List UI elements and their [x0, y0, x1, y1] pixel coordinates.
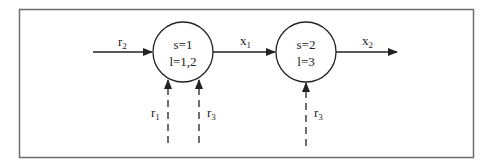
node-1-line2: l=1,2 — [169, 54, 196, 69]
node-1-line1: s=1 — [174, 37, 193, 52]
edge-r1-node1: r1 — [151, 80, 168, 143]
edge-r3-node2: r3 — [306, 83, 323, 146]
edge-x2-outgoing: x2 — [336, 33, 397, 52]
node-2-circle — [276, 22, 336, 82]
node-2-line2: l=3 — [297, 54, 314, 69]
diagram-frame — [20, 10, 474, 158]
node-1-circle — [153, 22, 213, 82]
edge-x1: x1 — [213, 33, 275, 52]
node-1: s=1 l=1,2 — [153, 22, 213, 82]
edge-label-x1: x1 — [240, 33, 251, 50]
node-2-line1: s=2 — [297, 37, 316, 52]
edge-label-r3-node2: r3 — [314, 105, 323, 122]
diagram-canvas: r2 s=1 l=1,2 x1 s=2 l=3 x2 r1 r3 r3 — [0, 0, 490, 166]
edge-r2-incoming: r2 — [93, 34, 152, 52]
edge-label-r1: r1 — [151, 105, 160, 122]
node-2: s=2 l=3 — [276, 22, 336, 82]
edge-label-x2: x2 — [362, 33, 373, 50]
edge-r3-node1: r3 — [199, 80, 216, 143]
edge-label-r3-node1: r3 — [207, 105, 216, 122]
edge-label-r2: r2 — [118, 34, 127, 51]
